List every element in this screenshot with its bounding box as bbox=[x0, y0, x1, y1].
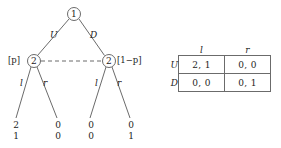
edge-left-node-l bbox=[16, 67, 31, 118]
left-node-edge-label-r: r bbox=[43, 79, 47, 88]
terminal-payoff-2-player2: 0 bbox=[52, 132, 64, 141]
edge-right-node-r bbox=[112, 67, 130, 118]
matrix-cell-U-r: 0, 0 bbox=[225, 56, 271, 74]
matrix-row-header-D: D bbox=[165, 74, 179, 92]
matrix-row-header-U: U bbox=[165, 56, 179, 74]
edge-label-U: U bbox=[50, 31, 58, 40]
right-node-edge-label-r: r bbox=[117, 79, 121, 88]
payoff-matrix-wrapper: l r U 2, 1 0, 0 D 0, 0 0, 1 bbox=[165, 44, 271, 92]
matrix-cell-D-l: 0, 0 bbox=[179, 74, 225, 92]
terminal-payoff-2-player1: 0 bbox=[52, 121, 64, 130]
matrix-row-D: D 0, 0 0, 1 bbox=[165, 74, 271, 92]
payoff-matrix: l r U 2, 1 0, 0 D 0, 0 0, 1 bbox=[165, 44, 271, 92]
figure-container: 1 U D 2 [p] 2 [1−p] l r l r 2 1 0 0 0 0 … bbox=[0, 0, 281, 148]
edge-right-node-l bbox=[90, 67, 106, 118]
right-node-edge-label-l: l bbox=[95, 79, 98, 88]
matrix-col-header-l: l bbox=[179, 44, 225, 56]
matrix-row-U: U 2, 1 0, 0 bbox=[165, 56, 271, 74]
terminal-payoff-3-player1: 0 bbox=[85, 121, 97, 130]
matrix-cell-D-r: 0, 1 bbox=[225, 74, 271, 92]
edge-label-D: D bbox=[90, 31, 97, 40]
matrix-col-header-r: r bbox=[225, 44, 271, 56]
right-node-probability-label: [1−p] bbox=[117, 56, 142, 65]
terminal-payoff-1-player1: 2 bbox=[10, 121, 22, 130]
terminal-payoff-4-player1: 0 bbox=[125, 121, 137, 130]
left-node-edge-label-l: l bbox=[20, 79, 23, 88]
matrix-corner-cell bbox=[165, 44, 179, 56]
terminal-payoff-1-player2: 1 bbox=[10, 132, 22, 141]
matrix-cell-U-l: 2, 1 bbox=[179, 56, 225, 74]
edge-left-node-r bbox=[37, 67, 57, 118]
terminal-payoff-3-player2: 0 bbox=[85, 132, 97, 141]
terminal-payoff-4-player2: 1 bbox=[125, 132, 137, 141]
matrix-header-row: l r bbox=[165, 44, 271, 56]
root-node-label: 1 bbox=[71, 10, 77, 19]
right-decision-node-label: 2 bbox=[106, 57, 112, 66]
left-decision-node-label: 2 bbox=[31, 57, 37, 66]
left-node-probability-label: [p] bbox=[8, 56, 20, 65]
